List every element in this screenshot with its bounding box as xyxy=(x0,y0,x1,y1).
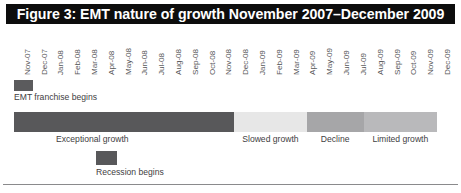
axis-tick-text: Aug-08 xyxy=(174,27,184,75)
axis-tick-text: Feb-08 xyxy=(73,27,83,75)
axis-tick-label: Dec-07 xyxy=(40,27,50,75)
axis-tick-label: Feb-08 xyxy=(73,27,83,75)
timeline-bar xyxy=(14,112,437,132)
axis-tick-label: Jul-08 xyxy=(157,27,167,75)
axis-tick-text: Oct-09 xyxy=(409,27,419,75)
axis-tick-label: Aug-08 xyxy=(174,27,184,75)
axis-tick-text: Sep-09 xyxy=(393,27,403,75)
recession-marker-swatch xyxy=(96,151,117,165)
figure-container: Figure 3: EMT nature of growth November … xyxy=(0,0,461,193)
emt-franchise-marker-swatch xyxy=(14,80,33,91)
axis-tick-text: May-08 xyxy=(124,27,134,75)
axis-tick-label: Jun-09 xyxy=(342,27,352,75)
axis-tick-label: Mar-08 xyxy=(90,27,100,75)
axis-tick-label: Feb-09 xyxy=(275,27,285,75)
timeline-segment xyxy=(364,112,437,132)
axis-tick-text: Dec-07 xyxy=(40,27,50,75)
month-axis: Nov-07Dec-07Jan-08Feb-08Mar-08Apr-08May-… xyxy=(14,27,451,75)
axis-tick-text: Nov-09 xyxy=(426,27,436,75)
axis-tick-text: Apr-09 xyxy=(308,27,318,75)
axis-tick-text: Nov-07 xyxy=(23,27,33,75)
recession-marker-label: Recession begins xyxy=(96,167,164,178)
emt-franchise-marker-label: EMT franchise begins xyxy=(14,92,97,103)
axis-tick-label: Apr-08 xyxy=(107,27,117,75)
axis-tick-text: Jan-08 xyxy=(56,27,66,75)
axis-tick-text: Oct-08 xyxy=(208,27,218,75)
timeline-segment-caption: Slowed growth xyxy=(242,134,298,145)
axis-tick-text: Nov-08 xyxy=(224,27,234,75)
bottom-divider xyxy=(3,184,458,185)
axis-tick-text: Apr-08 xyxy=(107,27,117,75)
axis-tick-label: Dec-09 xyxy=(443,27,453,75)
axis-tick-text: Mar-09 xyxy=(292,27,302,75)
axis-tick-label: Sep-08 xyxy=(191,27,201,75)
figure-title: Figure 3: EMT nature of growth November … xyxy=(6,4,455,24)
axis-tick-label: Dec-08 xyxy=(241,27,251,75)
axis-tick-label: Jun-08 xyxy=(140,27,150,75)
axis-tick-label: Jan-08 xyxy=(56,27,66,75)
axis-tick-text: Mar-08 xyxy=(90,27,100,75)
timeline-segment xyxy=(234,112,307,132)
axis-tick-label: May-08 xyxy=(124,27,134,75)
axis-tick-label: Jan-09 xyxy=(258,27,268,75)
axis-tick-label: May-09 xyxy=(325,27,335,75)
axis-tick-text: Feb-09 xyxy=(275,27,285,75)
timeline-segment-caption: Limited growth xyxy=(372,134,428,145)
axis-tick-label: Oct-08 xyxy=(208,27,218,75)
axis-tick-text: Dec-09 xyxy=(443,27,453,75)
axis-tick-label: Sep-09 xyxy=(393,27,403,75)
axis-tick-text: Sep-08 xyxy=(191,27,201,75)
axis-tick-text: Jul-09 xyxy=(359,27,369,75)
axis-tick-text: Jul-08 xyxy=(157,27,167,75)
axis-tick-text: Dec-08 xyxy=(241,27,251,75)
timeline-segment-caption: Decline xyxy=(321,134,350,145)
axis-tick-label: Apr-09 xyxy=(308,27,318,75)
axis-tick-label: Nov-08 xyxy=(224,27,234,75)
axis-tick-label: Nov-07 xyxy=(23,27,33,75)
axis-tick-label: Nov-09 xyxy=(426,27,436,75)
timeline-segment xyxy=(307,112,364,132)
axis-tick-text: May-09 xyxy=(325,27,335,75)
axis-tick-label: Mar-09 xyxy=(292,27,302,75)
axis-tick-label: Aug-09 xyxy=(376,27,386,75)
axis-tick-text: Aug-09 xyxy=(376,27,386,75)
axis-tick-text: Jun-09 xyxy=(342,27,352,75)
timeline-segment-caption: Exceptional growth xyxy=(56,134,129,145)
timeline-segment xyxy=(14,112,234,132)
axis-tick-text: Jun-08 xyxy=(140,27,150,75)
axis-tick-text: Jan-09 xyxy=(258,27,268,75)
axis-tick-label: Oct-09 xyxy=(409,27,419,75)
axis-tick-label: Jul-09 xyxy=(359,27,369,75)
